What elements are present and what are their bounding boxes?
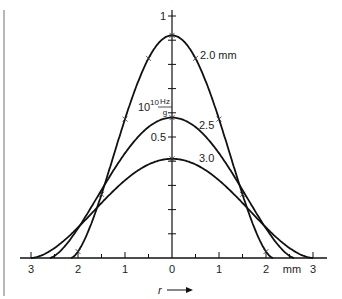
x-tick-label: 3	[28, 263, 34, 275]
y-unit-denominator: g	[163, 108, 167, 117]
x-tick-label: 1	[122, 263, 128, 275]
x-unit-label: mm	[283, 263, 301, 275]
y-tick-label: 1	[160, 10, 166, 22]
x-axis-label: r	[158, 284, 163, 296]
x-tick-label: 3	[310, 263, 316, 275]
x-tick-label: 0	[169, 263, 175, 275]
x-tick-label: 2	[75, 263, 81, 275]
y-tick-label: 0.5	[151, 131, 166, 143]
chart-canvas: 3210123mm10.51010Hzgr2.0 mm2.53.0	[0, 0, 342, 299]
series-label: 3.0	[199, 152, 214, 164]
x-tick-label: 2	[263, 263, 269, 275]
y-unit-numerator: Hz	[160, 97, 170, 106]
y-unit-base: 10	[138, 101, 150, 113]
x-tick-label: 1	[216, 263, 222, 275]
series-label: 2.0 mm	[200, 49, 237, 61]
x-axis-arrow-head	[186, 287, 193, 293]
axes	[20, 10, 327, 258]
y-unit-exponent: 10	[150, 98, 159, 107]
series-label: 2.5	[199, 119, 214, 131]
